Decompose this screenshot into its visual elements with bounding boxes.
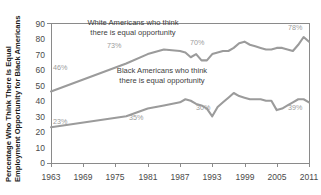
- x-tick-1999: 1999: [236, 172, 255, 182]
- point-label-white-1984: 73%: [107, 41, 122, 50]
- x-tick-1975: 1975: [106, 172, 125, 182]
- point-label-white-1993: 70%: [190, 38, 205, 47]
- y-tick-50: 50: [36, 81, 46, 91]
- y-tick-20: 20: [36, 127, 46, 137]
- y-axis-title-line2: Employment Opportunity for Black America…: [13, 16, 22, 182]
- line-chart: Percentage Who Think There Is Equal Empl…: [0, 0, 321, 195]
- annotation-black-line1: Black Americans who think: [117, 66, 208, 75]
- x-tick-2005: 2005: [268, 172, 287, 182]
- x-tick-1993: 1993: [203, 172, 222, 182]
- x-tick-2011: 2011: [300, 172, 319, 182]
- y-tick-70: 70: [36, 50, 46, 60]
- x-tick-1969: 1969: [74, 172, 93, 182]
- series-line-black-americans: [51, 93, 309, 127]
- y-tick-60: 60: [36, 65, 46, 75]
- y-tick-90: 90: [36, 19, 46, 29]
- x-tick-1963: 1963: [42, 172, 61, 182]
- y-tick-80: 80: [36, 34, 46, 44]
- y-tick-40: 40: [36, 96, 46, 106]
- point-label-black-2011: 39%: [288, 103, 303, 112]
- point-label-black-1993: 30%: [196, 103, 211, 112]
- annotation-white-line1: White Americans who think: [87, 18, 178, 27]
- point-label-black-1963: 23%: [53, 117, 68, 126]
- y-tick-30: 30: [36, 112, 46, 122]
- y-tick-0: 0: [40, 158, 45, 168]
- chart-container: Percentage Who Think There Is Equal Empl…: [0, 0, 321, 195]
- y-axis-title-line1: Percentage Who Think There Is Equal: [4, 46, 13, 182]
- point-label-black-1984: 35%: [129, 113, 144, 122]
- point-label-white-2011: 78%: [288, 23, 303, 32]
- x-tick-1987: 1987: [171, 172, 190, 182]
- y-tick-10: 10: [36, 143, 46, 153]
- point-label-white-1963: 46%: [53, 63, 68, 72]
- x-tick-1981: 1981: [139, 172, 158, 182]
- annotation-white-line2: there is equal opportunity: [90, 28, 175, 37]
- annotation-black-line2: there is equal opportunity: [119, 76, 204, 85]
